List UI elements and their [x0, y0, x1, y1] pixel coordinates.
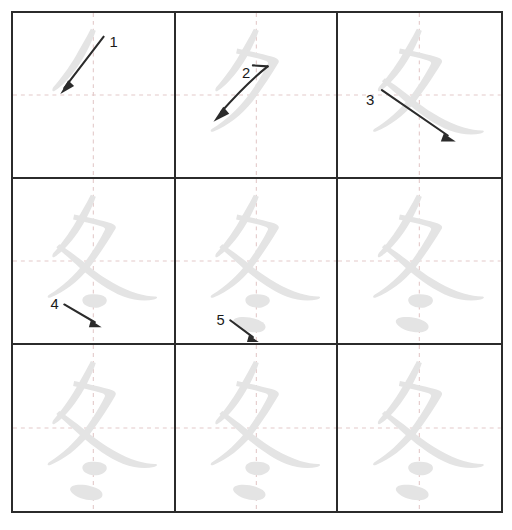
grid-cell-2[interactable]: 2: [176, 13, 339, 179]
cell-7-canvas: [13, 345, 174, 511]
grid-cell-4[interactable]: 4: [13, 179, 176, 345]
stroke-arrow-4: [64, 304, 101, 327]
glyph-strokes: [48, 361, 157, 500]
grid-cell-6[interactable]: [338, 179, 501, 345]
glyph-strokes: [373, 195, 484, 333]
grid-cell-9[interactable]: [338, 345, 501, 511]
glyph-strokes: [52, 29, 95, 91]
glyph-strokes: [373, 29, 484, 135]
cell-8-canvas: [176, 345, 337, 511]
grid-cell-3[interactable]: 3: [338, 13, 501, 179]
grid-cell-1[interactable]: 1: [13, 13, 176, 179]
stroke-number-label: 5: [216, 312, 224, 328]
stroke-number-label: 1: [110, 34, 118, 50]
stroke-number-label: 4: [50, 296, 58, 312]
glyph-strokes: [373, 361, 484, 500]
grid-cell-7[interactable]: [13, 345, 176, 511]
stroke-number-label: 2: [242, 65, 250, 81]
cell-5-canvas: 5: [176, 179, 337, 343]
stroke-number-label: 3: [366, 92, 374, 108]
glyph-strokes: [210, 361, 319, 500]
cell-1-canvas: 1: [13, 13, 174, 177]
cell-6-canvas: [338, 179, 501, 343]
cell-4-canvas: 4: [13, 179, 174, 343]
cell-9-canvas: [338, 345, 501, 511]
glyph-strokes: [48, 195, 157, 308]
glyph-strokes: [210, 195, 319, 333]
cell-3-canvas: 3: [338, 13, 501, 177]
stroke-order-grid: 1 2: [11, 11, 503, 513]
cell-2-canvas: 2: [176, 13, 337, 177]
grid-cell-8[interactable]: [176, 345, 339, 511]
grid-cell-5[interactable]: 5: [176, 179, 339, 345]
